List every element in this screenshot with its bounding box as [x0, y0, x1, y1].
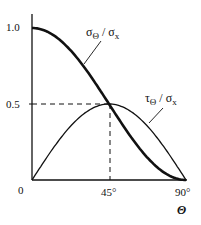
sigma-divisor-subscript: x: [115, 31, 120, 41]
x-axis-label: Θ: [177, 203, 186, 217]
chart: 1.0 0.5 0 45° 90° Θ σΘ / σx τΘ / σx: [0, 0, 201, 225]
y-tick-label-05: 0.5: [6, 98, 20, 110]
tau-divisor-subscript: x: [172, 97, 177, 107]
x-tick-label-45: 45°: [101, 186, 116, 198]
sigma-leader-line: [84, 41, 101, 64]
sigma-divisor: / σ: [99, 25, 115, 39]
tau-divisor: / σ: [156, 91, 172, 105]
origin-label: 0: [18, 184, 24, 196]
y-tick-label-1: 1.0: [6, 21, 20, 33]
tau-curve: [32, 104, 186, 180]
tau-leader-line: [149, 108, 163, 123]
tau-curve-label: τΘ / σx: [145, 91, 177, 107]
x-tick-label-90: 90°: [175, 186, 190, 198]
sigma-curve-label: σΘ / σx: [86, 25, 120, 41]
